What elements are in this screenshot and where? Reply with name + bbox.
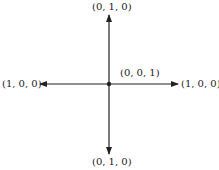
- right-label: (1, 0, 0): [181, 78, 219, 90]
- bottom-label: (0, 1, 0): [92, 156, 132, 168]
- origin-label: (0, 0, 1): [120, 67, 160, 79]
- origin-dot: [107, 82, 111, 86]
- top-label: (0, 1, 0): [92, 1, 132, 13]
- left-label: (1, 0, 0): [2, 78, 42, 90]
